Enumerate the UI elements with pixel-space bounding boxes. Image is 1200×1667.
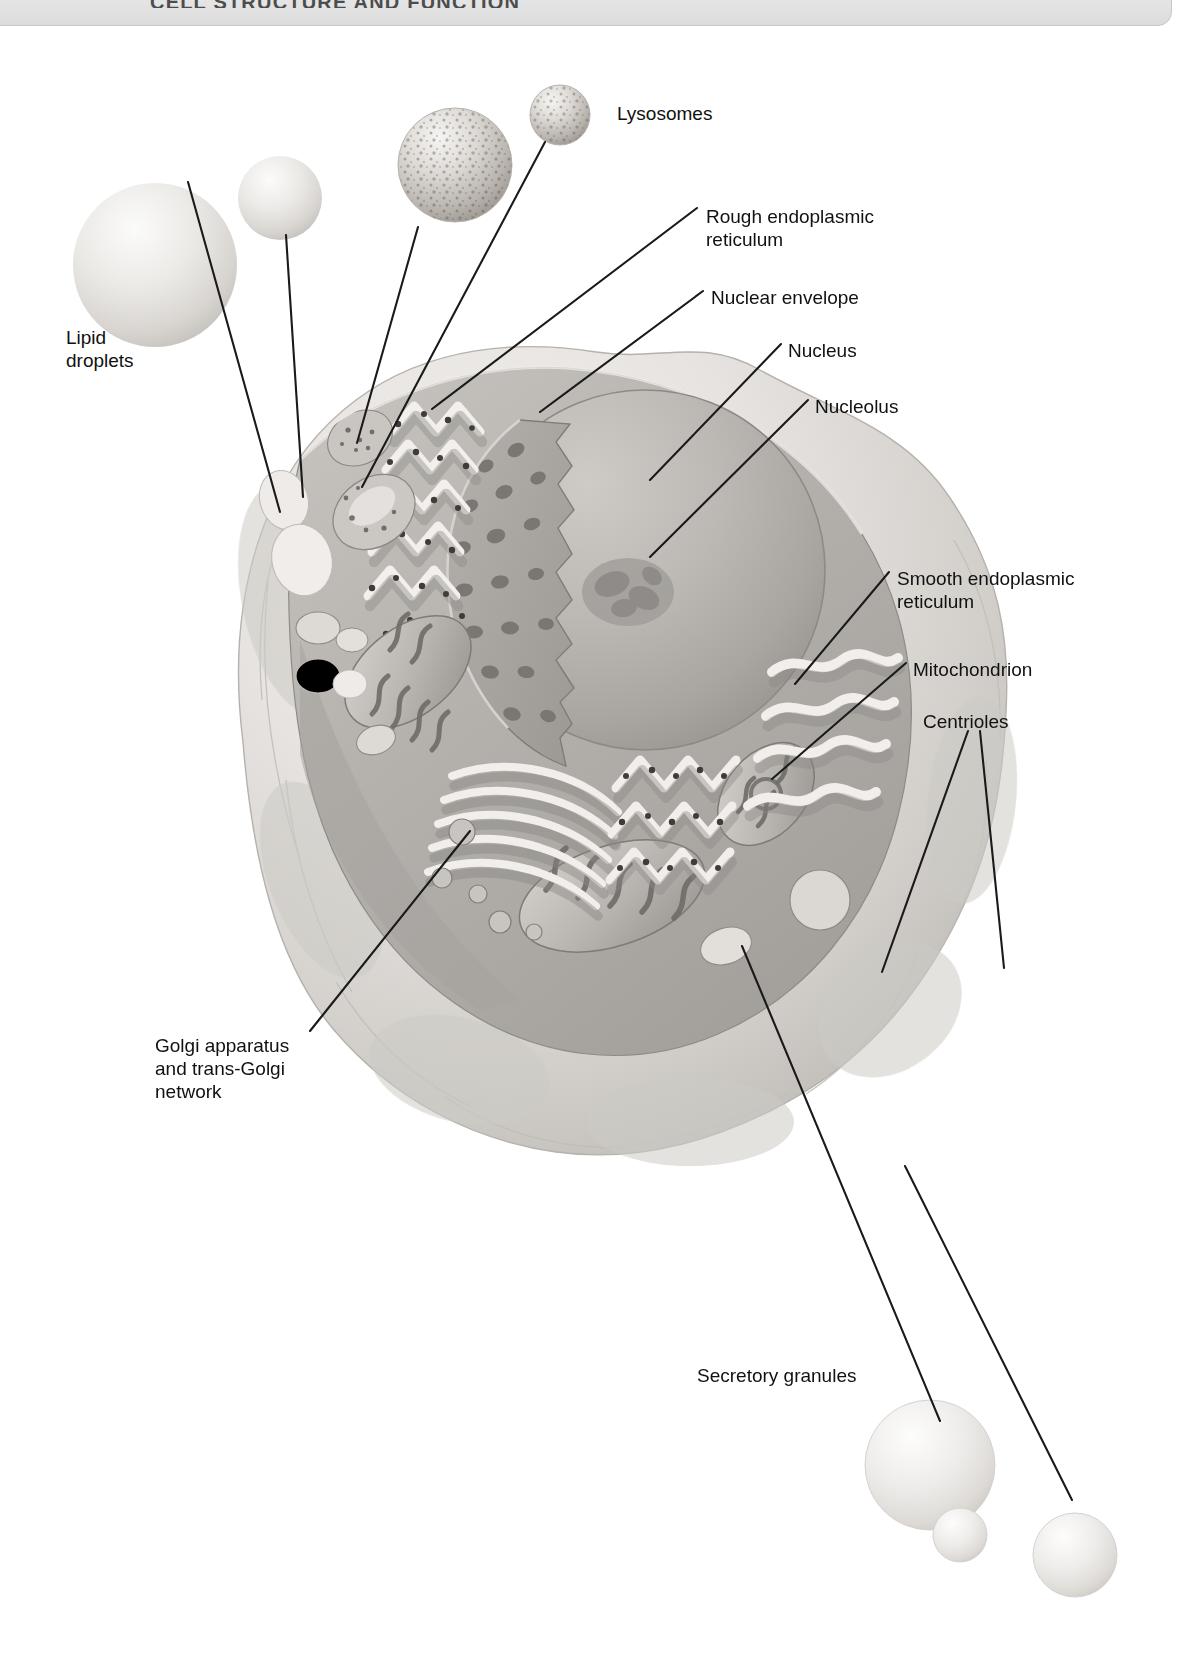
label-rough-endoplasmic-reticulum: Rough endoplasmic reticulum <box>706 205 874 251</box>
label-lysosomes: Lysosomes <box>617 102 712 125</box>
cell-illustration-svg <box>0 0 1200 1667</box>
secretory-granule-tiny-shape <box>933 1508 987 1562</box>
floating-organelles-top <box>73 85 590 347</box>
lipid-droplet-small-shape <box>238 156 322 240</box>
label-centrioles: Centrioles <box>923 710 1009 733</box>
leader-lipid-droplet-2 <box>286 235 303 497</box>
lysosome-large-shape <box>398 108 512 222</box>
label-nucleus: Nucleus <box>788 339 857 362</box>
figure-page: CELL STRUCTURE AND FUNCTION <box>0 0 1200 1667</box>
cell-illustration <box>0 0 1200 1667</box>
secretory-granule-medium-shape <box>1033 1513 1117 1597</box>
label-smooth-endoplasmic-reticulum: Smooth endoplasmic reticulum <box>897 567 1074 613</box>
rough-er-right <box>610 760 738 890</box>
cell-body <box>218 347 1033 1166</box>
lysosome-small-shape <box>530 85 590 145</box>
label-lipid-droplets: Lipid droplets <box>66 326 134 372</box>
label-nucleolus: Nucleolus <box>815 395 898 418</box>
label-secretory-granules: Secretory granules <box>697 1364 856 1387</box>
nucleolus <box>582 558 674 626</box>
label-mitochondrion: Mitochondrion <box>913 658 1032 681</box>
secretory-granule-large-shape <box>865 1400 995 1530</box>
label-nuclear-envelope: Nuclear envelope <box>711 286 859 309</box>
secretory-granules-group <box>865 1400 1117 1597</box>
label-golgi-apparatus: Golgi apparatus and trans-Golgi network <box>155 1034 289 1103</box>
surface-vesicle-2 <box>333 670 367 698</box>
lipid-droplet-large-shape <box>73 183 237 347</box>
